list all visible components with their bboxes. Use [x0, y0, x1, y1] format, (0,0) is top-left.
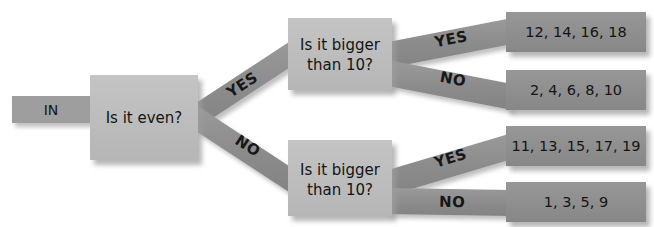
output-label-even-le10: 2, 4, 6, 8, 10: [530, 82, 622, 98]
decision-label-odd-branch-line2: than 10?: [307, 181, 373, 199]
decision-label-even-branch-line1: Is it bigger: [300, 36, 381, 54]
output-box-even-gt10: 12, 14, 16, 18: [506, 12, 646, 52]
input-box: IN: [12, 96, 90, 123]
decision-box-even-branch: Is it bigger than 10?: [288, 18, 392, 90]
decision-label-even-branch-line2: than 10?: [307, 56, 373, 74]
decision-box-root: Is it even?: [90, 75, 198, 160]
input-label: IN: [44, 102, 59, 118]
decision-label-root: Is it even?: [106, 109, 183, 127]
branch-label-odd-no: NO: [439, 193, 465, 211]
output-box-odd-le10: 1, 3, 5, 9: [506, 182, 646, 222]
output-label-even-gt10: 12, 14, 16, 18: [525, 24, 626, 40]
flowchart-diagram: 12, 14, 16, 18 2, 4, 6, 8, 10 11, 13, 15…: [0, 0, 654, 227]
output-label-odd-gt10: 11, 13, 15, 17, 19: [511, 138, 640, 154]
output-box-odd-gt10: 11, 13, 15, 17, 19: [506, 126, 646, 166]
decision-label-odd-branch-line1: Is it bigger: [300, 161, 381, 179]
output-box-even-le10: 2, 4, 6, 8, 10: [506, 70, 646, 110]
decision-box-odd-branch: Is it bigger than 10?: [288, 140, 392, 216]
output-label-odd-le10: 1, 3, 5, 9: [544, 194, 609, 210]
